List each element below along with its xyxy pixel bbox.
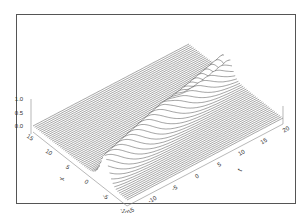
u-tick-label: 0.5	[15, 110, 24, 116]
u-tick-label: 0.0	[15, 123, 24, 129]
t-tick-label: -15	[125, 206, 136, 213]
u-tick-label: 1.0	[15, 96, 24, 102]
x-axis-label: x	[59, 176, 66, 181]
surface-plot: 0.00.51.0151050-5-10-15-10-505101520xt	[0, 0, 307, 213]
